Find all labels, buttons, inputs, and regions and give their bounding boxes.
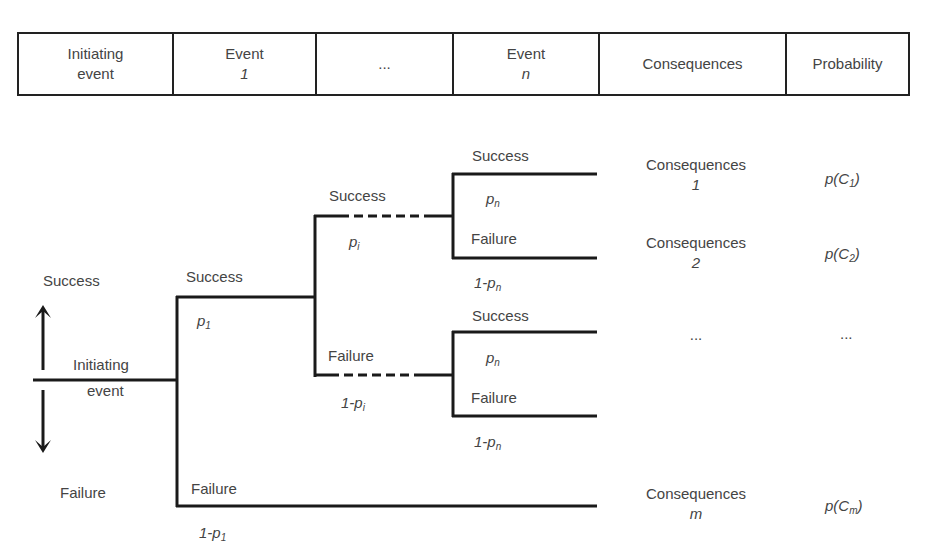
event1-failure-label: Failure (191, 480, 237, 498)
initiating-event-label-line2: event (87, 382, 124, 400)
eventn-lower-failure-prob: 1-pn (474, 433, 501, 456)
event1-failure-prob: 1-p1 (199, 524, 226, 547)
consequences-2-index: 2 (626, 253, 766, 273)
eventn-upper-success-prob: pn (486, 190, 500, 213)
consequences-2-label: Consequences (626, 233, 766, 253)
eventn-upper-failure-label: Failure (471, 230, 517, 248)
outcome-consequences-1: Consequences 1 (626, 155, 766, 195)
outcome-consequences-2: Consequences 2 (626, 233, 766, 273)
eventn-upper-success-label: Success (472, 147, 529, 165)
outcome-prob-m: p(Cm) (825, 497, 863, 520)
event1-success-prob: p1 (197, 312, 211, 335)
initiating-failure-label: Failure (60, 484, 106, 502)
initiating-success-label: Success (43, 272, 100, 290)
consequences-ellipsis-label: ... (626, 325, 766, 345)
outcome-consequences-ellipsis: ... (626, 325, 766, 345)
eventn-lower-failure-label: Failure (471, 389, 517, 407)
consequences-m-index: m (626, 504, 766, 524)
outcome-consequences-m: Consequences m (626, 484, 766, 524)
consequences-1-label: Consequences (626, 155, 766, 175)
eventi-failure-prob: 1-pi (341, 394, 365, 417)
outcome-prob-2: p(C2) (825, 245, 860, 268)
eventn-lower-success-prob: pn (486, 349, 500, 372)
consequences-1-index: 1 (626, 175, 766, 195)
eventn-lower-success-label: Success (472, 307, 529, 325)
consequences-m-label: Consequences (626, 484, 766, 504)
eventi-success-prob: pi (349, 233, 360, 256)
outcome-prob-ellipsis: ... (840, 325, 853, 343)
eventn-upper-failure-prob: 1-pn (474, 274, 501, 297)
eventi-failure-label: Failure (328, 347, 374, 365)
eventi-success-label: Success (329, 187, 386, 205)
outcome-prob-1: p(C1) (825, 170, 860, 193)
event-tree-lines (0, 0, 933, 559)
event1-success-label: Success (186, 268, 243, 286)
initiating-event-label-line1: Initiating (73, 356, 129, 374)
